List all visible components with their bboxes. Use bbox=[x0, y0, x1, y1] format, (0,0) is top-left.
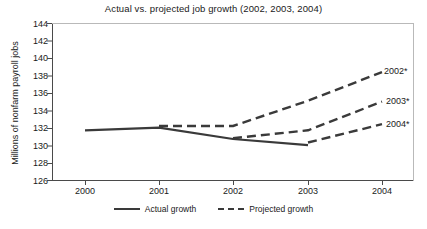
legend-label: Projected growth bbox=[249, 204, 313, 214]
series-annotation-2004: 2004* bbox=[386, 119, 410, 129]
plot-area bbox=[0, 0, 427, 229]
x-axis-ticks bbox=[86, 181, 383, 185]
legend-label: Actual growth bbox=[145, 204, 197, 214]
legend-item-actual-growth: Actual growth bbox=[114, 204, 197, 214]
legend-dashed-line-icon bbox=[218, 205, 244, 214]
series-line-actual-growth bbox=[85, 128, 308, 145]
series-line-2002-projection bbox=[159, 72, 382, 126]
legend-item-projected-growth: Projected growth bbox=[218, 204, 313, 214]
y-axis-ticks bbox=[47, 24, 52, 181]
axis-lines bbox=[52, 23, 414, 181]
series-annotation-2002: 2002* bbox=[384, 66, 408, 76]
series-annotation-2003: 2003* bbox=[386, 96, 410, 106]
series-line-2003-projection bbox=[233, 102, 382, 139]
chart-container: Actual vs. projected job growth (2002, 2… bbox=[0, 0, 427, 229]
chart-legend: Actual growth Projected growth bbox=[0, 204, 427, 214]
legend-solid-line-icon bbox=[114, 205, 140, 214]
